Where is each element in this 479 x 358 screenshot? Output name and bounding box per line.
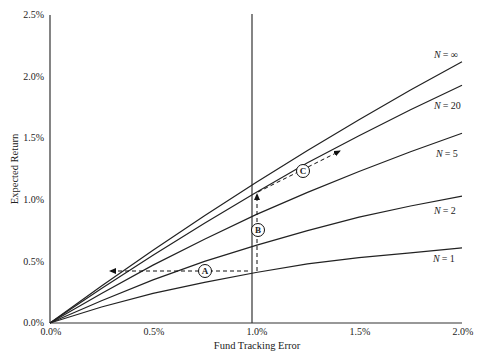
- curve-label-n-infinity: N= ∞: [433, 49, 458, 60]
- annotation-b: B: [252, 224, 265, 237]
- x-tick-labels: 0.0% 0.5% 1.0% 1.5% 2.0%: [41, 326, 474, 337]
- x-tick: 0.0%: [41, 326, 62, 337]
- curve-labels: N= ∞ N= 20 N= 5 N= 2 N= 1: [432, 49, 461, 264]
- y-axis-title: Expected Return: [9, 133, 20, 204]
- curve-label-n-20: N= 20: [433, 100, 461, 111]
- y-tick-labels: 0.0% 0.5% 1.0% 1.5% 2.0% 2.5%: [23, 9, 44, 328]
- curves: [50, 62, 462, 323]
- y-tick: 0.5%: [23, 256, 44, 267]
- y-tick: 1.0%: [23, 194, 44, 205]
- y-tick: 2.5%: [23, 9, 44, 20]
- curve-label-n-2: N= 2: [433, 205, 456, 216]
- y-tick: 1.5%: [23, 132, 44, 143]
- annotation-c-label: C: [300, 166, 307, 176]
- x-tick: 1.5%: [350, 326, 371, 337]
- annotation-a: A: [199, 265, 212, 278]
- x-axis-title: Fund Tracking Error: [214, 340, 301, 351]
- chart: 0.0% 0.5% 1.0% 1.5% 2.0% 2.5% 0.0% 0.5% …: [0, 0, 479, 358]
- y-tick: 2.0%: [23, 71, 44, 82]
- x-tick: 0.5%: [144, 326, 165, 337]
- annotation-a-label: A: [202, 266, 209, 276]
- x-tick: 2.0%: [453, 326, 474, 337]
- curve-label-n-5: N= 5: [435, 148, 458, 159]
- annotation-c: C: [297, 165, 310, 178]
- curve-label-n-1: N= 1: [432, 253, 455, 264]
- annotation-b-label: B: [255, 225, 261, 235]
- curve-n-1: [50, 248, 462, 323]
- x-tick: 1.0%: [247, 326, 268, 337]
